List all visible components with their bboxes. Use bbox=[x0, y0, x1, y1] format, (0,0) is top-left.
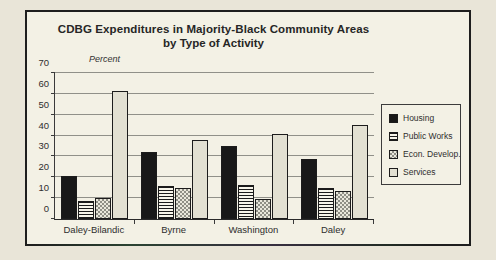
legend-item-public-works: Public Works bbox=[389, 131, 460, 141]
chart-frame: CDBG Expenditures in Majority-Black Comm… bbox=[25, 10, 471, 246]
legend-label-housing: Housing bbox=[403, 113, 434, 123]
bar-public-works-washington bbox=[238, 185, 254, 219]
scanned-page: CDBG Expenditures in Majority-Black Comm… bbox=[0, 0, 496, 260]
bar-group-daley bbox=[294, 73, 374, 219]
legend-item-services: Services bbox=[389, 167, 460, 177]
legend-label-public-works: Public Works bbox=[403, 131, 452, 141]
bar-econ-develop-byrne bbox=[175, 188, 191, 219]
bar-services-byrne bbox=[192, 140, 208, 219]
bar-housing-byrne bbox=[141, 152, 157, 219]
bar-econ-develop-washington bbox=[255, 199, 271, 219]
y-tick-label-30: 30 bbox=[28, 140, 49, 151]
bar-housing-daley bbox=[301, 159, 317, 220]
x-label-washington: Washington bbox=[214, 224, 294, 235]
y-tick-label-0: 0 bbox=[28, 203, 49, 214]
housing-swatch-icon bbox=[389, 114, 398, 123]
bar-group-washington bbox=[215, 73, 295, 219]
y-tick-label-20: 20 bbox=[28, 161, 49, 172]
bar-housing-daley-bilandic bbox=[61, 176, 77, 219]
bar-public-works-daley-bilandic bbox=[78, 201, 94, 219]
x-tick-4 bbox=[373, 220, 374, 224]
bar-housing-washington bbox=[221, 146, 237, 219]
chart-subtitle: by Type of Activity bbox=[54, 37, 373, 50]
y-tick-label-10: 10 bbox=[28, 182, 49, 193]
legend-label-econ-develop: Econ. Develop. bbox=[403, 149, 461, 159]
legend: HousingPublic WorksEcon. Develop.Service… bbox=[381, 104, 461, 185]
scan-artifact bbox=[30, 244, 430, 246]
legend-label-services: Services bbox=[403, 167, 436, 177]
econ-develop-swatch-icon bbox=[389, 150, 398, 159]
bar-public-works-daley bbox=[318, 188, 334, 219]
bar-public-works-byrne bbox=[158, 186, 174, 219]
bar-group-daley-bilandic bbox=[55, 73, 135, 219]
legend-item-econ-develop: Econ. Develop. bbox=[389, 149, 460, 159]
bar-services-daley-bilandic bbox=[112, 91, 128, 219]
services-swatch-icon bbox=[389, 168, 398, 177]
x-label-daley: Daley bbox=[293, 224, 373, 235]
y-tick-label-50: 50 bbox=[28, 99, 49, 110]
public-works-swatch-icon bbox=[389, 132, 398, 141]
y-tick-label-70: 70 bbox=[28, 57, 49, 68]
chart-title: CDBG Expenditures in Majority-Black Comm… bbox=[54, 23, 373, 36]
y-tick-label-60: 60 bbox=[28, 78, 49, 89]
y-axis-label: Percent bbox=[89, 54, 120, 64]
bar-services-washington bbox=[272, 134, 288, 220]
bar-econ-develop-daley-bilandic bbox=[95, 198, 111, 219]
plot-area: 706050403020100 bbox=[54, 73, 374, 220]
bar-group-byrne bbox=[135, 73, 215, 219]
bar-econ-develop-daley bbox=[335, 191, 351, 219]
x-label-byrne: Byrne bbox=[134, 224, 214, 235]
y-tick-label-40: 40 bbox=[28, 120, 49, 131]
bar-services-daley bbox=[352, 125, 368, 219]
legend-item-housing: Housing bbox=[389, 113, 460, 123]
x-label-daley-bilandic: Daley-Bilandic bbox=[54, 224, 134, 235]
